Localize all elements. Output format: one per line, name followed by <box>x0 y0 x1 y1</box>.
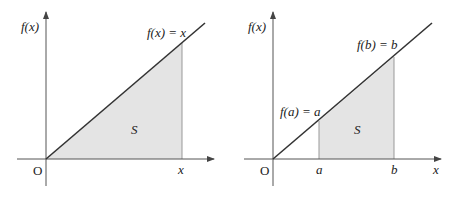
left-line-label: f(x) = x <box>147 25 186 40</box>
right-shaded-region <box>319 57 394 159</box>
left-y-axis-label: f(x) <box>21 19 39 34</box>
right-point-b-label: f(b) = b <box>357 37 398 52</box>
right-origin-label: O <box>260 163 269 178</box>
left-figure: f(x) f(x) = x S O x <box>17 12 214 186</box>
right-a-tick-label: a <box>316 162 323 177</box>
right-y-axis-label: f(x) <box>248 19 266 34</box>
right-region-label: S <box>354 122 361 137</box>
left-region-label: S <box>131 122 138 137</box>
right-figure: f(x) f(b) = b f(a) = a S O a b x <box>244 12 441 186</box>
left-x-tick-label: x <box>177 162 184 177</box>
diagram-canvas: f(x) f(x) = x S O x f(x) f(b) = b f(a) =… <box>0 0 457 199</box>
right-x-axis-label: x <box>432 162 439 177</box>
right-b-tick-label: b <box>391 162 398 177</box>
left-origin-label: O <box>33 163 42 178</box>
right-point-a-label: f(a) = a <box>280 104 321 119</box>
